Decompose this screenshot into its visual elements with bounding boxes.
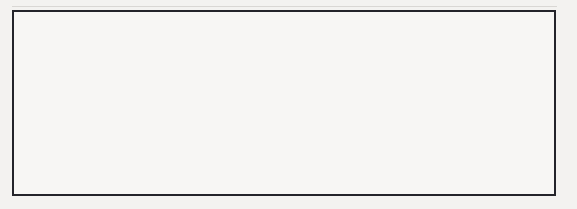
page-rule [12,6,557,7]
figure-caption [14,199,434,209]
figure-root [0,0,577,209]
chart-frame [12,10,556,196]
pie-chart[interactable] [14,12,554,194]
